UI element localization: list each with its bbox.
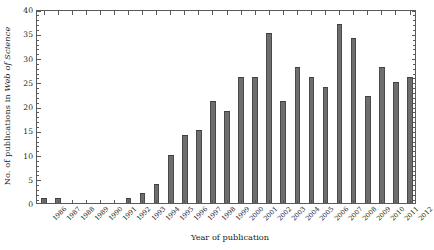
bar	[393, 82, 399, 203]
x-axis-tick-mark	[227, 200, 228, 204]
y-axis-tick-mark	[413, 54, 415, 55]
y-axis-tick-mark	[413, 171, 415, 172]
y-axis-tick-mark	[37, 98, 39, 99]
y-axis-tick-mark	[413, 185, 415, 186]
y-axis-tick-mark	[37, 146, 39, 147]
y-axis-tick-mark	[37, 180, 41, 181]
y-axis-tick-mark	[37, 156, 41, 157]
bar	[196, 130, 202, 203]
x-axis-tick-mark	[395, 11, 396, 15]
x-axis-tick-mark	[86, 200, 87, 204]
y-axis-label-italic: Web of Science	[2, 27, 12, 92]
y-axis-tick-mark	[413, 88, 415, 89]
y-axis-tick-mark	[413, 78, 415, 79]
y-axis-tick-mark	[37, 25, 39, 26]
x-axis-tick-mark	[325, 200, 326, 204]
y-axis-tick-mark	[413, 69, 415, 70]
x-axis-tick-mark	[255, 11, 256, 15]
y-axis-tick-mark	[37, 35, 41, 36]
x-axis-tick-mark	[44, 200, 45, 204]
y-axis-tick-mark	[412, 108, 416, 109]
x-axis-tick-mark	[269, 200, 270, 204]
x-axis-tick-mark	[142, 11, 143, 15]
y-tick-label: 15	[23, 127, 33, 136]
x-axis-tick-mark	[339, 11, 340, 15]
x-axis-tick-mark	[156, 11, 157, 15]
y-axis-tick-mark	[37, 40, 39, 41]
y-axis-tick-mark	[412, 35, 416, 36]
x-axis-tick-mark	[367, 200, 368, 204]
y-axis-tick-mark	[37, 15, 39, 16]
y-axis-tick-labels: 0510152025303540	[14, 0, 35, 212]
bar	[337, 24, 343, 203]
y-axis-tick-mark	[37, 166, 39, 167]
y-axis-tick-mark	[413, 98, 415, 99]
x-tick-label: 1994	[164, 205, 182, 223]
y-axis-tick-mark	[37, 117, 39, 118]
y-axis-tick-mark	[37, 127, 39, 128]
x-axis-tick-mark	[198, 11, 199, 15]
y-axis-tick-mark	[37, 200, 39, 201]
y-axis-tick-mark	[413, 93, 415, 94]
y-axis-tick-mark	[413, 200, 415, 201]
x-axis-tick-mark	[184, 200, 185, 204]
y-axis-tick-mark	[413, 74, 415, 75]
y-axis-tick-mark	[413, 122, 415, 123]
y-axis-tick-mark	[37, 74, 39, 75]
bar	[266, 33, 272, 203]
y-axis-tick-mark	[413, 30, 415, 31]
y-axis-tick-mark	[37, 108, 41, 109]
y-axis-tick-mark	[413, 166, 415, 167]
x-axis-tick-mark	[395, 200, 396, 204]
y-axis-tick-mark	[413, 40, 415, 41]
bar	[365, 96, 371, 203]
x-axis-label-container: Year of publication	[36, 232, 424, 242]
y-axis-tick-mark	[37, 112, 39, 113]
y-axis-tick-mark	[37, 54, 39, 55]
x-axis-tick-mark	[184, 11, 185, 15]
y-axis-tick-mark	[37, 185, 39, 186]
x-axis-tick-mark	[114, 200, 115, 204]
y-axis-tick-mark	[413, 45, 415, 46]
x-axis-tick-mark	[58, 11, 59, 15]
x-tick-label: 2006	[332, 205, 350, 223]
x-axis-tick-mark	[128, 200, 129, 204]
y-tick-label: 25	[23, 78, 33, 87]
x-axis-tick-mark	[297, 11, 298, 15]
x-axis-tick-mark	[100, 11, 101, 15]
x-tick-label: 2007	[346, 205, 364, 223]
bar	[295, 67, 301, 203]
y-axis-tick-mark	[37, 64, 39, 65]
x-axis-tick-mark	[410, 200, 411, 204]
x-tick-label: 1986	[51, 205, 69, 223]
x-axis-tick-mark	[198, 200, 199, 204]
y-axis-tick-mark	[37, 171, 39, 172]
x-tick-label: 2009	[375, 205, 393, 223]
x-axis-tick-mark	[283, 200, 284, 204]
y-axis-tick-mark	[413, 127, 415, 128]
y-axis-tick-mark	[413, 20, 415, 21]
bar	[224, 111, 230, 203]
y-axis-tick-mark	[37, 175, 39, 176]
y-axis-tick-mark	[37, 49, 39, 50]
x-axis-tick-mark	[227, 11, 228, 15]
x-tick-label: 2010	[389, 205, 407, 223]
x-axis-tick-mark	[311, 200, 312, 204]
y-axis-tick-mark	[37, 103, 39, 104]
x-axis-tick-mark	[297, 200, 298, 204]
y-axis-tick-mark	[412, 83, 416, 84]
bar	[309, 77, 315, 203]
y-axis-tick-mark	[413, 137, 415, 138]
y-axis-tick-mark	[413, 25, 415, 26]
bar	[252, 77, 258, 203]
x-axis-tick-mark	[72, 200, 73, 204]
y-axis-tick-mark	[37, 45, 39, 46]
x-axis-tick-mark	[255, 200, 256, 204]
x-axis-tick-mark	[170, 11, 171, 15]
y-axis-tick-mark	[412, 132, 416, 133]
x-axis-tick-mark	[339, 200, 340, 204]
y-axis-tick-mark	[37, 137, 39, 138]
y-axis-tick-mark	[413, 161, 415, 162]
x-axis-tick-mark	[114, 11, 115, 15]
